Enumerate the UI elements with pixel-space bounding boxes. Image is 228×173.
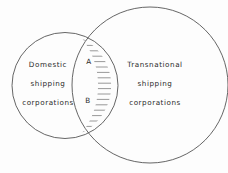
right-circle-outline xyxy=(72,7,228,163)
intersection-hatching xyxy=(60,30,120,142)
venn-diagram-figure: Domestic shipping corporations Transnati… xyxy=(0,0,228,173)
venn-diagram-canvas xyxy=(0,0,228,173)
